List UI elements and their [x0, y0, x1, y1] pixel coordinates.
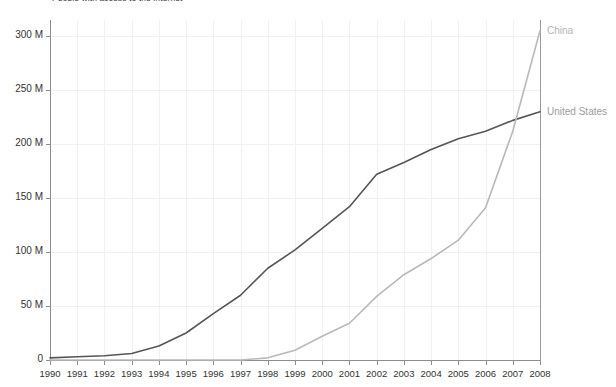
chart-container: People with access to the internet 050 M… — [0, 0, 616, 387]
series-line-china — [50, 31, 540, 360]
series-label-united-states: United States — [547, 106, 607, 117]
series-line-united-states — [50, 112, 540, 358]
series-lines — [0, 0, 616, 387]
series-label-china: China — [547, 25, 573, 36]
